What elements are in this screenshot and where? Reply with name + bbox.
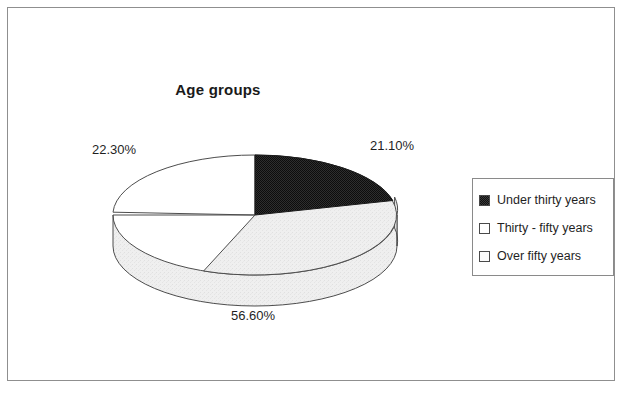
pie-side-wall-right xyxy=(395,197,398,246)
legend-swatch-under-thirty-icon xyxy=(479,195,490,206)
pie-slice-under-thirty xyxy=(255,155,393,215)
chart-frame: Age groups xyxy=(7,7,615,381)
data-label-thirty-fifty: 22.30% xyxy=(92,142,136,157)
legend-label-over-fifty: Over fifty years xyxy=(497,249,581,263)
data-label-over-fifty: 56.60% xyxy=(231,308,275,323)
legend-label-thirty-fifty: Thirty - fifty years xyxy=(497,221,593,235)
legend-label-under-thirty: Under thirty years xyxy=(497,193,596,207)
legend-item-thirty-fifty[interactable]: Thirty - fifty years xyxy=(479,214,613,242)
legend-item-under-thirty[interactable]: Under thirty years xyxy=(479,186,613,214)
pie-side-wall-gray xyxy=(113,215,397,306)
data-label-under-thirty: 21.10% xyxy=(370,138,414,153)
pie-slice-thirty-fifty xyxy=(113,155,255,215)
chart-title: Age groups xyxy=(8,81,428,98)
legend-item-over-fifty[interactable]: Over fifty years xyxy=(479,242,613,270)
pie-slice-over-fifty xyxy=(204,155,397,275)
legend-swatch-thirty-fifty-icon xyxy=(479,223,490,234)
chart-legend: Under thirty years Thirty - fifty years … xyxy=(472,178,614,276)
legend-swatch-over-fifty-icon xyxy=(479,251,490,262)
